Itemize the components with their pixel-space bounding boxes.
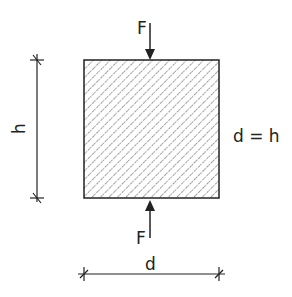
height-dimension — [30, 54, 44, 203]
force-top-label: F — [137, 18, 147, 38]
force-arrow-bottom — [145, 200, 155, 238]
specimen-square — [84, 60, 219, 198]
height-label: h — [9, 123, 29, 134]
force-bottom-label: F — [136, 228, 146, 248]
compression-diagram: F F h d d = h — [0, 0, 292, 297]
width-label: d — [145, 254, 156, 274]
relation-label: d = h — [233, 126, 280, 146]
